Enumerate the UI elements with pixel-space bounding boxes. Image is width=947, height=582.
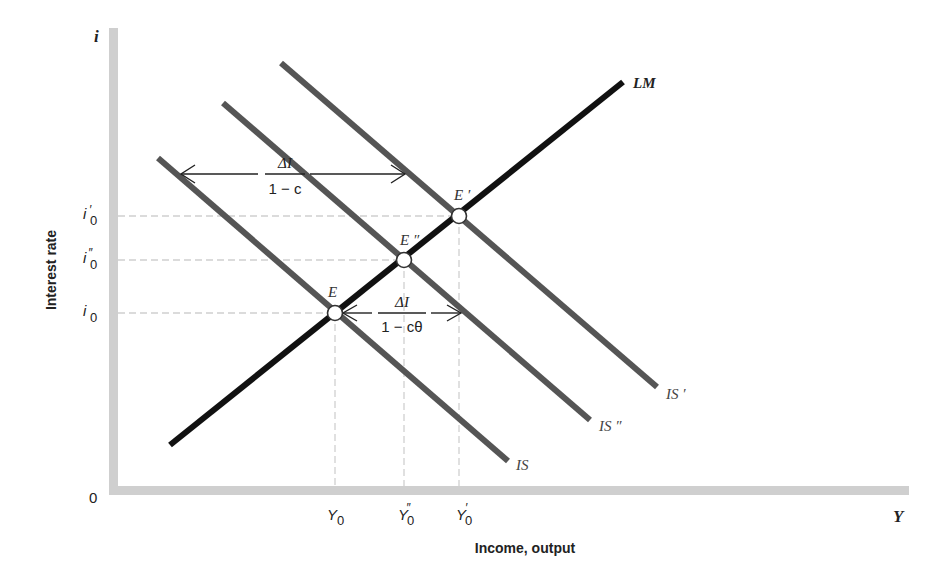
x-axis-bar [109, 486, 909, 495]
y-axis-bar [109, 28, 118, 495]
svg-text:i: i [83, 205, 87, 222]
x-tick-y0-prime: Y ′ 0 [456, 501, 472, 528]
is-label: IS [515, 457, 529, 473]
svg-text:i: i [83, 249, 87, 266]
is-double-prime-label: IS ″ [598, 418, 622, 434]
y-tick-i0: i 0 [83, 302, 97, 325]
x-tick-y0: Y 0 [327, 506, 344, 528]
y-axis-title: Interest rate [43, 230, 59, 310]
is-lm-diagram: i Y 0 Interest rate Income, output i ′ 0… [0, 0, 947, 582]
equilibrium-e-double-prime-label: E ″ [399, 232, 420, 248]
svg-text:0: 0 [337, 513, 344, 528]
equilibrium-e-prime-marker [452, 209, 467, 224]
y-axis-symbol: i [94, 27, 99, 46]
equilibrium-e-double-prime-marker [397, 253, 412, 268]
y-tick-i0-prime: i ′ 0 [83, 203, 97, 228]
x-tick-y0-double-prime: Y ″ 0 [398, 501, 414, 528]
lm-label: LM [632, 75, 656, 91]
multiplier-simple-numerator: ΔI [277, 155, 293, 171]
svg-text:0: 0 [90, 257, 97, 272]
equilibrium-e-label: E [327, 284, 337, 300]
is-prime-label: IS ′ [665, 386, 686, 402]
svg-text:i: i [83, 302, 87, 319]
svg-text:0: 0 [407, 513, 414, 528]
svg-text:0: 0 [465, 513, 472, 528]
multiplier-simple-denominator: 1 − c [269, 180, 302, 197]
svg-text:0: 0 [90, 213, 97, 228]
x-axis-title: Income, output [475, 540, 576, 556]
equilibrium-e-prime-label: E ′ [453, 187, 471, 203]
multiplier-with-money-numerator: ΔI [394, 294, 410, 310]
y-tick-i0-double-prime: i ″ 0 [83, 246, 97, 272]
svg-text:0: 0 [90, 310, 97, 325]
is-prime-curve [281, 63, 657, 387]
equilibrium-e-marker [328, 306, 343, 321]
x-axis-symbol: Y [893, 507, 905, 526]
multiplier-with-money-denominator: 1 − cθ [381, 318, 422, 335]
origin-label: 0 [89, 489, 97, 506]
